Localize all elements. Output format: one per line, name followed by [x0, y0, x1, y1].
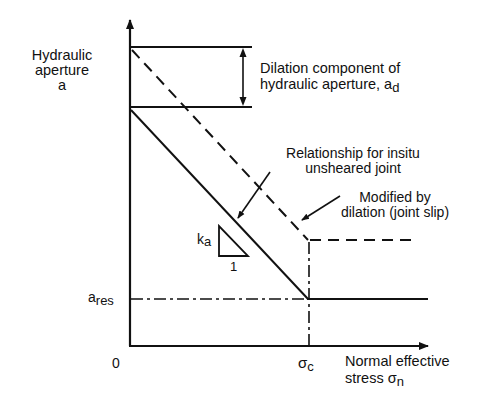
- dilation-component-label: Dilation component of hydraulic aperture…: [260, 60, 400, 93]
- y-axis-label-line3: a: [22, 78, 102, 93]
- x-axis-label: Normal effective stress σn: [345, 353, 450, 387]
- x-axis-label-prefix: stress: [345, 370, 388, 386]
- x-axis-label-line2: stress σn: [345, 370, 450, 387]
- modified-label-line1: Modified by: [325, 190, 465, 205]
- x-axis-label-line1: Normal effective: [345, 353, 450, 370]
- dilation-label-text: hydraulic aperture, a: [260, 76, 392, 92]
- dilation-label-line2: hydraulic aperture, ad: [260, 76, 400, 93]
- modified-label-line2: dilation (joint slip): [325, 205, 465, 220]
- sigma-c-label: σc: [298, 355, 314, 371]
- modified-by-dilation-label: Modified by dilation (joint slip): [325, 190, 465, 220]
- dilation-label-line1: Dilation component of: [260, 60, 400, 76]
- sigma-c-base: σ: [298, 354, 307, 371]
- slope-k-subscript: a: [204, 234, 211, 249]
- y-axis-label-line2: aperture: [22, 63, 102, 78]
- x-axis-sigma: σ: [388, 370, 397, 386]
- y-axis-label-line1: Hydraulic: [22, 48, 102, 63]
- x-axis-subscript: n: [397, 374, 404, 389]
- insitu-label-line1: Relationship for insitu: [268, 146, 438, 161]
- y-axis-label: Hydraulic aperture a: [22, 48, 102, 93]
- insitu-label-line2: unsheared joint: [268, 161, 438, 176]
- a-res-subscript: res: [96, 293, 114, 308]
- insitu-joint-label: Relationship for insitu unsheared joint: [268, 146, 438, 176]
- slope-k: k: [197, 231, 204, 247]
- insitu-relationship-line: [131, 110, 308, 299]
- slope-run-label: 1: [230, 259, 237, 274]
- a-res-base: a: [88, 289, 96, 305]
- insitu-leader-arrow: [238, 172, 270, 218]
- a-res-label: ares: [88, 290, 114, 305]
- sigma-c-subscript: c: [307, 359, 314, 374]
- origin-label: 0: [112, 356, 120, 371]
- dilation-label-subscript: d: [392, 80, 399, 95]
- slope-ka-label: ka: [197, 232, 211, 247]
